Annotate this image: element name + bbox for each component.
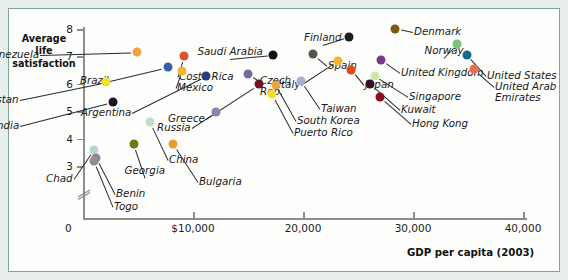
data-point-saudi-arabia[interactable] bbox=[269, 51, 278, 60]
point-label-line: Chad bbox=[46, 173, 73, 185]
data-point-india[interactable] bbox=[108, 98, 117, 107]
point-label-taiwan: Taiwan bbox=[321, 103, 357, 115]
data-point-china[interactable] bbox=[146, 118, 155, 127]
data-point-pakistan[interactable] bbox=[102, 78, 111, 87]
point-label-singapore: Singapore bbox=[409, 91, 461, 103]
point-label-bulgaria: Bulgaria bbox=[199, 176, 242, 188]
leader-line-brazil bbox=[110, 69, 162, 82]
point-label-line: Puerto Rico bbox=[294, 127, 353, 139]
data-point-russia[interactable] bbox=[212, 108, 221, 117]
data-point-denmark[interactable] bbox=[391, 24, 400, 33]
leader-line-taiwan bbox=[304, 86, 321, 110]
data-point-united-arab-emirates[interactable] bbox=[469, 65, 478, 74]
data-point-norway[interactable] bbox=[453, 40, 462, 49]
point-label-russia: Russia bbox=[157, 122, 191, 134]
point-label-line: Saudi Arabia bbox=[198, 46, 263, 58]
leader-line-argentina bbox=[132, 79, 201, 114]
point-label-pakistan: Pakistan bbox=[0, 94, 19, 106]
point-label-hong-kong: Hong Kong bbox=[412, 118, 468, 130]
data-point-taiwan[interactable] bbox=[296, 76, 305, 85]
data-point-brazil[interactable] bbox=[163, 63, 172, 72]
point-label-line: Hong Kong bbox=[412, 118, 468, 130]
point-label-line: Emirates bbox=[495, 92, 556, 103]
point-label-puerto-rico: Puerto Rico bbox=[294, 127, 353, 139]
point-label-india: India bbox=[0, 120, 19, 132]
point-label-line: Taiwan bbox=[321, 103, 357, 115]
data-point-hong-kong[interactable] bbox=[376, 93, 385, 102]
data-point-united-kingdom[interactable] bbox=[377, 55, 386, 64]
leader-line-italy bbox=[301, 64, 334, 86]
point-label-line: Singapore bbox=[409, 91, 461, 103]
point-label-togo: Togo bbox=[114, 201, 138, 213]
point-label-venezuela: Venezuela bbox=[0, 49, 39, 61]
data-point-greece[interactable] bbox=[255, 80, 264, 89]
leader-line-spain bbox=[317, 58, 327, 67]
point-label-line: India bbox=[0, 120, 19, 132]
data-point-united-states[interactable] bbox=[462, 50, 471, 59]
point-label-benin: Benin bbox=[116, 188, 145, 200]
data-point-puerto-rico[interactable] bbox=[268, 90, 277, 99]
figure-panel: Averagelifesatisfaction GDP per capita (… bbox=[8, 8, 560, 272]
data-point-czech-rep[interactable] bbox=[244, 69, 253, 78]
point-label-united-arab-emirates: United ArabEmirates bbox=[495, 81, 556, 104]
data-point-togo[interactable] bbox=[90, 157, 99, 166]
point-label-line: Pakistan bbox=[0, 94, 19, 106]
data-points-layer: VenezuelaCosta RicaBrazilMexicoPakistanA… bbox=[9, 9, 559, 271]
point-label-kuwait: Kuwait bbox=[401, 104, 436, 116]
point-label-line: Venezuela bbox=[0, 49, 39, 61]
leader-line-japan bbox=[355, 74, 364, 85]
data-point-spain[interactable] bbox=[308, 50, 317, 59]
leader-line-pakistan bbox=[20, 84, 100, 101]
data-point-japan[interactable] bbox=[347, 65, 356, 74]
point-label-line: Denmark bbox=[414, 26, 461, 38]
point-label-line: Bulgaria bbox=[199, 176, 242, 188]
data-point-mexico[interactable] bbox=[178, 66, 187, 75]
data-point-south-korea[interactable] bbox=[271, 80, 280, 89]
data-point-argentina[interactable] bbox=[202, 72, 211, 81]
data-point-kuwait[interactable] bbox=[366, 79, 375, 88]
point-label-line: South Korea bbox=[297, 115, 360, 127]
point-label-line: Togo bbox=[114, 201, 138, 213]
point-label-line: Kuwait bbox=[401, 104, 436, 116]
data-point-italy[interactable] bbox=[334, 56, 343, 65]
leader-line-venezuela bbox=[40, 52, 131, 55]
point-label-south-korea: South Korea bbox=[297, 115, 360, 127]
point-label-line: Georgia bbox=[125, 165, 166, 177]
leader-line-united-kingdom bbox=[386, 63, 400, 74]
point-label-georgia: Georgia bbox=[125, 165, 166, 177]
point-label-chad: Chad bbox=[46, 173, 73, 185]
data-point-georgia[interactable] bbox=[129, 140, 138, 149]
data-point-venezuela[interactable] bbox=[132, 48, 141, 57]
point-label-line: Benin bbox=[116, 188, 145, 200]
leader-line-denmark bbox=[401, 30, 413, 33]
data-point-bulgaria[interactable] bbox=[169, 140, 178, 149]
point-label-line: Russia bbox=[157, 122, 191, 134]
data-point-finland[interactable] bbox=[345, 32, 354, 41]
leader-line-chad bbox=[74, 155, 91, 180]
leader-line-puerto-rico bbox=[275, 100, 294, 134]
point-label-saudi-arabia: Saudi Arabia bbox=[198, 46, 263, 58]
data-point-costa-rica[interactable] bbox=[180, 52, 189, 61]
point-label-denmark: Denmark bbox=[414, 26, 461, 38]
